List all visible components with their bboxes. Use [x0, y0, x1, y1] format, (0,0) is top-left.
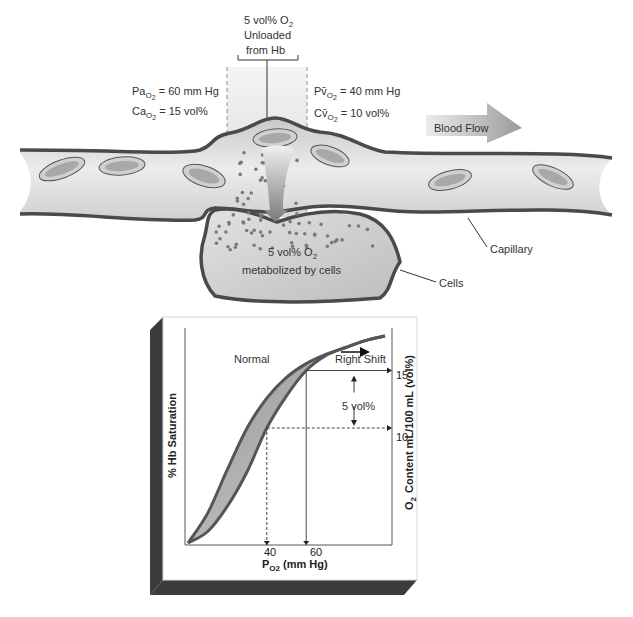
series-label-normal: Normal [234, 353, 269, 365]
oxygen-dot [259, 179, 263, 183]
cells-text-line2: metabolized by cells [242, 264, 342, 276]
oxygen-dot [254, 168, 258, 172]
oxygen-dot [313, 233, 317, 237]
oxygen-dot [241, 191, 245, 195]
oxygen-dot [357, 224, 361, 228]
oxygen-dot [264, 179, 268, 183]
oxygen-dot [247, 217, 251, 221]
oxygen-dot [226, 245, 230, 249]
cells-label: Cells [439, 277, 464, 289]
oxygen-dot [290, 241, 294, 245]
oxygen-dot [252, 244, 256, 248]
oxygen-dot [227, 222, 231, 226]
oxygen-dot [288, 220, 292, 224]
oxygen-dot [214, 230, 218, 234]
oxygen-dot [247, 211, 251, 215]
oxygen-dot [250, 231, 254, 235]
oxygen-dot [224, 230, 228, 234]
oxygen-dot [319, 223, 323, 227]
oxygen-dot [260, 214, 264, 218]
panel-left-side [150, 317, 163, 595]
delta-label: 5 vol% [342, 400, 375, 412]
oxygen-dot [218, 237, 222, 241]
capillary-callout-line [468, 218, 487, 247]
oxygen-dot [228, 248, 232, 252]
oxygen-dot [250, 191, 254, 195]
oxygen-dot [268, 230, 272, 234]
oxygen-dot [232, 213, 236, 217]
blood-flow-label: Blood Flow [434, 122, 488, 134]
oxygen-dot [308, 221, 312, 225]
oxygen-dot [241, 220, 245, 224]
oxygen-dot [239, 161, 243, 165]
oxygen-dot [303, 232, 307, 236]
diagram-canvas: Blood Flow 5 vol% O2 Unloaded from Hb Pa… [0, 0, 633, 617]
panel-bottom-side [150, 580, 417, 595]
oxygen-dot [295, 212, 299, 216]
oxygen-dot [252, 229, 256, 233]
oxygen-dot [234, 245, 238, 249]
oxygen-dot [259, 247, 263, 251]
oxygen-dot [236, 199, 240, 203]
x-tick-label-40: 40 [264, 546, 276, 558]
oxygen-dot [217, 225, 221, 229]
oxygen-dot [335, 238, 339, 242]
oxygen-dot [282, 223, 286, 227]
venous-po2-label: Pv̄O2 = 40 mm Hg [314, 85, 400, 101]
oxygen-dot [288, 231, 292, 235]
oxygen-dot [297, 222, 301, 226]
oxygen-dot [326, 234, 330, 238]
capillary-label: Capillary [490, 243, 533, 255]
oxygen-dot [371, 244, 375, 248]
unload-label-line3: from Hb [246, 44, 285, 56]
oxygen-dot [348, 224, 352, 228]
oxygen-dot [326, 245, 330, 249]
arterial-po2-label: PaO2 = 60 mm Hg [132, 85, 219, 101]
oxygen-dot [295, 159, 299, 163]
oxygen-dot [259, 230, 263, 234]
oxygen-dot [261, 234, 265, 238]
venous-co2-label: Cv̄O2 = 10 vol% [314, 107, 389, 123]
x-tick-label-60: 60 [310, 546, 322, 558]
oxygen-dot [366, 228, 370, 232]
oxygen-dot [295, 232, 299, 236]
y-axis-left-label: % Hb Saturation [166, 393, 178, 478]
unload-label-line1: 5 vol% O2 [244, 14, 294, 29]
unload-label-line2: Unloaded [244, 29, 291, 41]
oxygen-dot [340, 238, 344, 242]
cells-callout-line [400, 270, 436, 282]
oxygen-dot [259, 218, 263, 222]
oxygen-dot [245, 229, 249, 233]
oxygen-dot [215, 241, 219, 245]
oxygen-dot [330, 241, 334, 245]
oxygen-dot [242, 202, 246, 206]
oxygen-dot [246, 197, 250, 201]
oxygen-dot [294, 202, 298, 206]
arterial-co2-label: CaO2 = 15 vol% [132, 105, 208, 121]
oxygen-dot [238, 173, 242, 177]
oxygen-dot [242, 151, 246, 155]
